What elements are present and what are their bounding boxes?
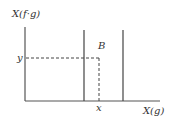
y-axis-label: X(f·g) <box>11 8 40 19</box>
region-label: B <box>97 40 105 51</box>
diagram-canvas: X(f·g) X(g) B y x <box>0 0 172 131</box>
x-marker-label: x <box>96 102 102 113</box>
x-axis-label: X(g) <box>142 105 164 116</box>
y-marker-label: y <box>16 52 23 63</box>
